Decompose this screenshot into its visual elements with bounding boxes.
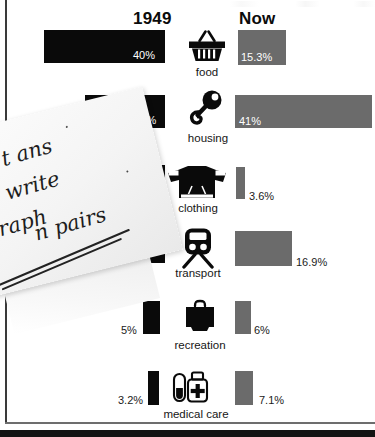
note-line-1: t ans <box>0 134 55 171</box>
bar-value-now-transport: 16.9% <box>296 256 327 268</box>
category-label-housing: housing <box>180 132 236 144</box>
bar-value-1949-recreation: 5% <box>121 324 137 336</box>
bar-value-now-clothing: 3.6% <box>249 190 274 202</box>
suitcase-icon <box>182 299 218 335</box>
bar-now-clothing <box>236 167 245 199</box>
bar-value-now-food: 15.3% <box>241 51 272 63</box>
category-label-food: food <box>186 66 228 78</box>
scan-artifact-top <box>230 1 375 7</box>
key-icon <box>188 90 226 130</box>
bar-value-now-housing: 41% <box>239 115 261 127</box>
page-bottom-dark-band <box>0 430 375 437</box>
bar-now-recreation <box>235 301 251 334</box>
column-header-1949: 1949 <box>133 9 172 29</box>
scanned-worksheet-page: 1949 Now 40% food 15.3% 26.1% <box>0 0 375 437</box>
note-line-2: s write <box>0 166 62 209</box>
bar-value-now-recreation: 6% <box>254 324 270 336</box>
category-label-transport: transport <box>170 267 226 279</box>
note-speck-2 <box>126 170 128 172</box>
train-icon <box>177 227 219 269</box>
page-frame-bottom-edge <box>5 422 375 424</box>
category-label-medical-care: medical care <box>159 408 233 420</box>
bar-value-1949-medical-care: 3.2% <box>118 394 143 406</box>
bar-value-1949-food: 40% <box>133 49 155 61</box>
bar-1949-medical-care <box>148 371 159 405</box>
bar-now-medical-care <box>235 371 253 405</box>
category-label-recreation: recreation <box>171 339 229 351</box>
note-speck-1 <box>66 126 68 128</box>
column-header-now: Now <box>239 9 275 29</box>
sweater-icon <box>166 164 228 202</box>
bar-now-transport <box>235 231 292 266</box>
category-label-clothing: clothing <box>172 202 224 214</box>
bar-value-now-medical-care: 7.1% <box>259 394 284 406</box>
bar-1949-recreation <box>143 301 160 334</box>
shopping-basket-icon <box>186 28 228 64</box>
medicine-icon <box>172 370 220 406</box>
